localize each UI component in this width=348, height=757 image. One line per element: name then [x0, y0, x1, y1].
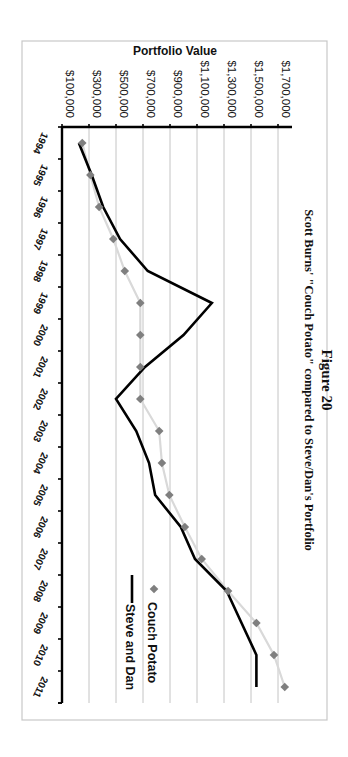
chart-frame — [22, 41, 327, 720]
value-tick-label: $1,100,000 — [199, 60, 211, 118]
title-line-2: Scott Burns' "Couch Potato" compared to … — [302, 209, 316, 551]
value-axis-title: Portfolio Value — [133, 44, 217, 58]
legend-label-couch-potato: Couch Potato — [145, 602, 159, 684]
value-tick-label: $1,500,000 — [253, 60, 265, 118]
value-tick-label: $700,000 — [145, 70, 157, 118]
value-tick-label: $500,000 — [118, 70, 130, 118]
value-tick-label: $1,300,000 — [226, 60, 238, 118]
title-line-1: Figure 20 — [319, 350, 335, 411]
chart: $100,000$300,000$500,000$700,000$900,000… — [0, 0, 348, 757]
value-tick-label: $1,700,000 — [280, 60, 292, 118]
value-tick-label: $900,000 — [172, 70, 184, 118]
value-axis-labels: $100,000$300,000$500,000$700,000$900,000… — [64, 60, 292, 118]
legend-label-steve-and-dan: Steve and Dan — [123, 604, 137, 690]
value-tick-label: $100,000 — [64, 70, 76, 118]
value-tick-label: $300,000 — [91, 70, 103, 118]
